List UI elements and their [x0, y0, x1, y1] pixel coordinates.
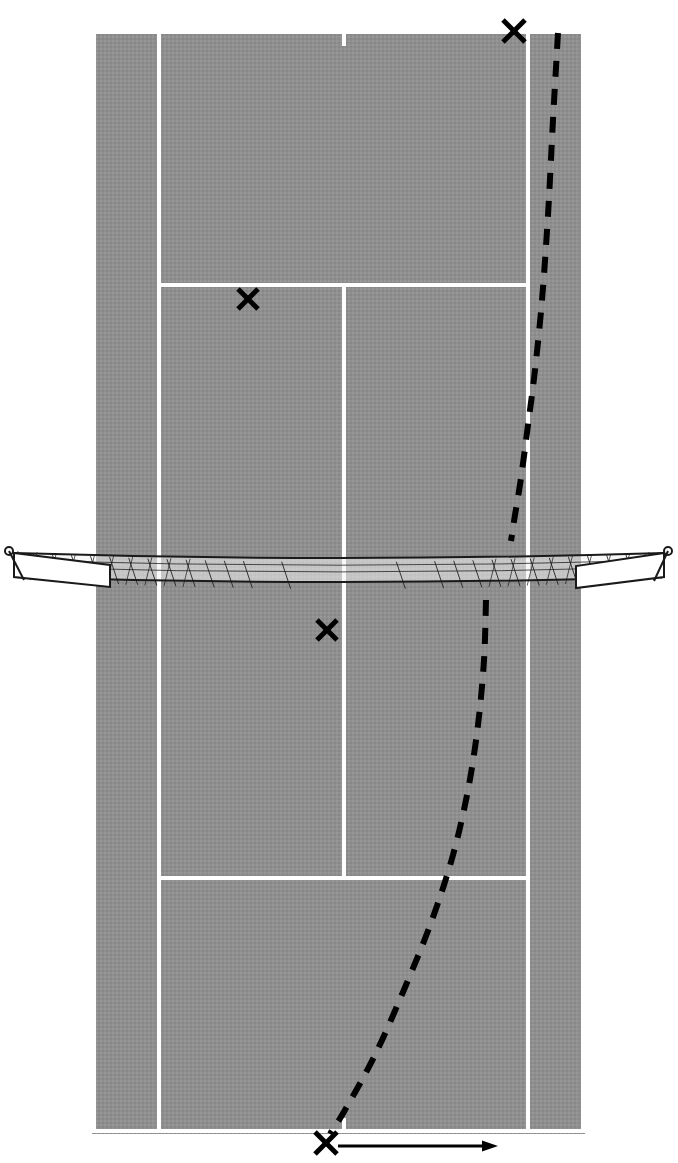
- court-svg-canvas: [0, 0, 678, 1163]
- tennis-court-diagram: [0, 0, 678, 1163]
